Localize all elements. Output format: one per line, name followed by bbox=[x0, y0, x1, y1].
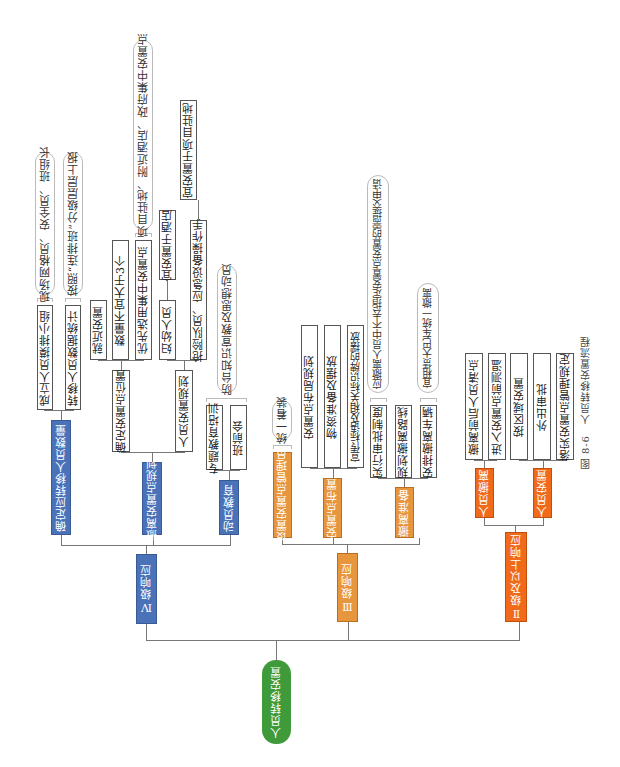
connector bbox=[146, 545, 147, 554]
note-text: 按照“连排班”分级层层上报 bbox=[68, 151, 79, 296]
connector bbox=[310, 468, 357, 469]
note-bubble: 项目驻地、附近酒店、政府集中安置点 bbox=[133, 40, 153, 230]
note-text: 宜租赁大巴车统一撤离 bbox=[423, 288, 433, 388]
note-text: 现场网格员、安全员、班组长 bbox=[40, 146, 51, 302]
node-label: 人员安置规划 bbox=[179, 375, 190, 447]
connector bbox=[333, 538, 334, 544]
node-label: 宣传标语及相关标识牌的摆放 bbox=[351, 332, 361, 462]
determine-transfer-count: 确定应转移人员数量 bbox=[51, 420, 71, 535]
connector bbox=[230, 535, 231, 545]
connector bbox=[198, 200, 199, 220]
level-ii-label: Ⅱ级及以上响应 bbox=[511, 534, 522, 620]
node-label: 确定安置点位置 bbox=[116, 369, 127, 453]
connector bbox=[121, 452, 185, 453]
connector bbox=[474, 460, 497, 461]
connector bbox=[378, 478, 428, 479]
node-label: 安置点布置 bbox=[327, 478, 338, 538]
connector bbox=[348, 622, 349, 640]
connector bbox=[484, 460, 485, 468]
leaf-node: 就近安置 bbox=[90, 300, 107, 360]
brace bbox=[206, 398, 247, 402]
connector bbox=[484, 518, 485, 525]
node-label: 动员教育 bbox=[224, 484, 235, 532]
note-text: 项目驻地、附近酒店、政府集中安置点 bbox=[138, 33, 149, 237]
node-label: 宜安置于项目驻地 bbox=[183, 102, 194, 198]
set-site-manager: 设置安置点管理员 bbox=[273, 452, 292, 538]
leaf-node: 宜安置于酒店 bbox=[159, 210, 176, 280]
leaf-node: 按区域安置 bbox=[510, 353, 528, 460]
leaf-node: 落实安置点管理规定 bbox=[556, 353, 574, 460]
leaf-node: 规划撤离路线 bbox=[395, 405, 412, 478]
connector bbox=[333, 468, 334, 478]
connector bbox=[146, 640, 520, 641]
connector bbox=[184, 360, 185, 370]
node-label: 就近安置 bbox=[93, 306, 104, 354]
leaf-node: 优先选用集中安置点 bbox=[135, 240, 152, 360]
caption-text: 图 8-6 人员转移安置流程 bbox=[581, 336, 591, 469]
level-iv-label: Ⅳ级响应 bbox=[141, 564, 152, 614]
node-label: 物资准备及摆放 bbox=[327, 355, 338, 439]
node-label: 确定应转移人员数量 bbox=[56, 424, 67, 532]
note-bubble: 按照“连排班”分级层层上报 bbox=[63, 152, 83, 295]
leaf-node: 撤离前后人员清点 bbox=[465, 353, 483, 460]
node-label: 专题教育培训 bbox=[209, 402, 220, 474]
connector bbox=[152, 452, 153, 462]
leaf-node: 抢险队员、应急设备操作手 bbox=[190, 220, 207, 360]
brace bbox=[370, 398, 387, 402]
connector bbox=[347, 544, 348, 553]
root-label: 人员转移安置 bbox=[271, 666, 282, 738]
node-label: 实行审批制度 bbox=[373, 406, 384, 478]
mobilization-education: 动员教育 bbox=[219, 480, 239, 535]
note-bubble: 宜租赁大巴车统一撤离 bbox=[417, 283, 439, 393]
evacuation-prep: 撤离准备 bbox=[395, 487, 414, 538]
node-label: 安置点布局规划 bbox=[304, 355, 315, 439]
connector bbox=[282, 544, 420, 545]
brace bbox=[273, 445, 292, 449]
leaf-node: 确定安置点位置 bbox=[112, 370, 130, 452]
leaf-node: 外出审批 bbox=[533, 353, 551, 460]
leaf-node: 成立人员摸排小组 bbox=[37, 305, 53, 410]
note-bubble: 统一着装 bbox=[272, 400, 292, 440]
connector bbox=[276, 641, 277, 661]
personnel-placement: 人员安置 bbox=[533, 468, 552, 518]
connector bbox=[229, 470, 230, 480]
connector bbox=[515, 525, 516, 532]
node-label: 转移人员数据统计 bbox=[68, 310, 79, 406]
level-iv-response: Ⅳ级响应 bbox=[136, 554, 157, 624]
level-iii-response: Ⅲ级响应 bbox=[337, 553, 358, 622]
node-label: 外出审批 bbox=[537, 383, 548, 431]
connector bbox=[121, 360, 122, 370]
leaf-node: 转移人员数据统计 bbox=[65, 305, 81, 410]
node-label: 成立人员摸排小组 bbox=[40, 310, 51, 406]
connector bbox=[44, 410, 74, 411]
root-node: 人员转移安置 bbox=[262, 660, 291, 744]
node-label: 人员安置 bbox=[537, 469, 548, 517]
note-bubble: 应撤离人员中不去指定安置点安置的需提交申请 bbox=[367, 175, 389, 393]
evacuation-site-planning: 撤离安置点规划 bbox=[142, 462, 162, 535]
level-ii-above-response: Ⅱ级及以上响应 bbox=[505, 532, 527, 622]
node-label: 妇幼人员 bbox=[162, 306, 173, 354]
connector bbox=[61, 410, 62, 420]
node-label: 人员撤离 bbox=[479, 469, 490, 517]
leaf-node: 安置点布局规划 bbox=[301, 325, 318, 468]
connector bbox=[519, 622, 520, 640]
leaf-node: 进入安置点前测温 bbox=[488, 353, 506, 460]
connector bbox=[61, 535, 62, 545]
node-label: 撤离准备 bbox=[399, 489, 410, 537]
node-label: 规划撤离路线 bbox=[398, 406, 409, 478]
node-label: 抢险队员、应急设备操作手 bbox=[193, 218, 204, 362]
leaf-node: 宣传标语及相关标识牌的摆放 bbox=[347, 325, 364, 468]
leaf-node: 人员安置规划 bbox=[175, 370, 193, 452]
node-label: 撤离前后人员清点 bbox=[469, 359, 480, 455]
note-text: 应撤离人员中不去指定安置点安置的需提交申请 bbox=[373, 179, 383, 389]
note-text: 统一着装 bbox=[277, 396, 288, 444]
leaf-node: 班前会 bbox=[230, 405, 247, 470]
leaf-node: 物资准备及摆放 bbox=[324, 325, 341, 468]
brace bbox=[420, 398, 437, 402]
figure-caption: 图 8-6 人员转移安置流程 bbox=[578, 340, 594, 465]
connector bbox=[419, 538, 420, 544]
connector bbox=[98, 360, 144, 361]
connector bbox=[543, 518, 544, 525]
note-bubble: 现场网格员、安全员、班组长 bbox=[35, 152, 55, 295]
node-label: 按区域安置 bbox=[514, 377, 525, 437]
